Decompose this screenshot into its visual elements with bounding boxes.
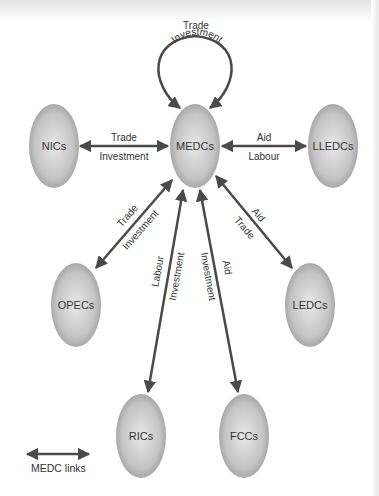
node-nics-label: NICs: [42, 140, 67, 152]
node-lledcs: LLEDCs: [308, 104, 358, 188]
self-loop-arrow: [158, 36, 231, 108]
node-nics: NICs: [29, 104, 79, 188]
medc-links-diagram: Trade Investment Trade Investment Aid La…: [0, 0, 379, 496]
node-opecs: OPECs: [51, 263, 101, 347]
nics-link-label-top: Trade: [111, 132, 137, 143]
fccs-link-label-right: Aid: [221, 259, 234, 275]
nics-link-label-bottom: Investment: [100, 151, 149, 162]
node-fccs: FCCs: [219, 394, 269, 478]
lledcs-link-label-bottom: Labour: [248, 151, 280, 162]
node-opecs-label: OPECs: [58, 299, 95, 311]
rics-link-label-left: Labour: [149, 254, 165, 287]
rics-link-label-right: Investment: [167, 251, 186, 301]
node-ledcs: LEDCs: [285, 263, 335, 347]
opecs-link-arrow: [96, 180, 172, 268]
legend-label: MEDC links: [31, 462, 86, 474]
node-fccs-label: FCCs: [230, 430, 259, 442]
node-lledcs-label: LLEDCs: [313, 140, 354, 152]
node-medcs: MEDCs: [170, 104, 220, 188]
self-loop-label-inner: Investment: [169, 26, 225, 45]
legend: MEDC links: [27, 454, 89, 474]
node-medcs-label: MEDCs: [176, 140, 214, 152]
lledcs-link-label-top: Aid: [257, 132, 271, 143]
ledcs-link-arrow: [216, 176, 292, 268]
node-rics-label: RICs: [129, 430, 154, 442]
node-rics: RICs: [116, 394, 166, 478]
ledcs-link-label-bottom: Trade: [232, 214, 257, 241]
node-ledcs-label: LEDCs: [293, 299, 328, 311]
